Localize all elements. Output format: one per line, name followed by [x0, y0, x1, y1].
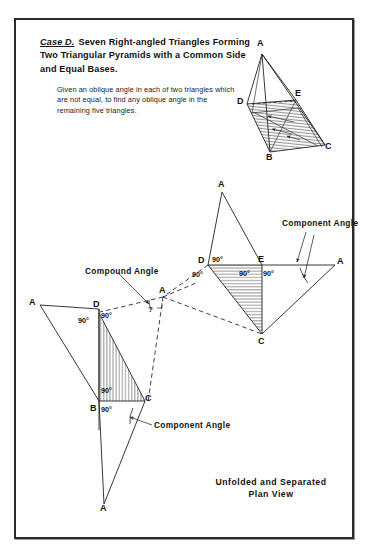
component-angle-leader-lower — [130, 417, 152, 425]
pictorial-label-e: E — [295, 88, 301, 98]
component-angle-leader-right-2 — [297, 232, 306, 262]
pictorial-label-b: B — [266, 152, 273, 162]
lower-label-a-bottom: A — [100, 503, 107, 513]
lower-label-c: C — [145, 393, 152, 403]
component-angle-label-lower: Component Angle — [154, 420, 230, 431]
pictorial-label-d: D — [237, 96, 244, 106]
plan-view-line1: Unfolded and Separated — [196, 476, 346, 488]
dashed-a-mid-to-d-lower — [100, 297, 163, 312]
upper-angle-1: 90° — [212, 255, 223, 264]
upper-angle-2: 90° — [192, 270, 203, 279]
compound-angle-question-mark: ? — [148, 305, 153, 314]
upper-angle-3: 90° — [239, 269, 250, 278]
component-angle-arc-lower — [130, 408, 133, 424]
pyramid-base-hatch — [247, 100, 325, 152]
pictorial-pyramid — [247, 54, 325, 152]
component-angle-arc-right — [300, 268, 308, 283]
segment-c-a-bottom — [104, 401, 145, 504]
lower-label-a-left: A — [29, 297, 36, 307]
upper-angle-4: 90° — [263, 269, 274, 278]
upper-label-e: E — [258, 254, 264, 264]
upper-label-a-top: A — [218, 179, 225, 189]
lower-angle-1: 90° — [78, 316, 89, 325]
lower-triangle-a-d-b — [40, 305, 99, 401]
lower-angle-4: 90° — [101, 405, 112, 414]
lower-angle-2: 90° — [101, 311, 112, 320]
plan-view-line2: Plan View — [196, 488, 346, 500]
lower-angle-3: 90° — [101, 386, 112, 395]
compound-angle-label: Compound Angle — [85, 266, 159, 277]
segment-b-a-bottom — [99, 401, 104, 504]
upper-label-a-right: A — [337, 256, 344, 266]
technical-drawing — [0, 0, 371, 558]
pictorial-label-c: C — [325, 141, 332, 151]
plan-view-caption: Unfolded and Separated Plan View — [196, 476, 346, 500]
lower-label-a-mid: A — [159, 285, 166, 295]
upper-label-c: C — [258, 336, 265, 346]
diagram-page: Case D.Seven Right-angled Triangles Form… — [0, 0, 371, 558]
lower-label-b: B — [90, 403, 97, 413]
component-angle-label-right: Component Angle — [282, 218, 344, 229]
pictorial-label-a: A — [257, 38, 264, 48]
component-angle-leader-right — [304, 235, 314, 278]
compound-angle-leader — [118, 273, 149, 304]
lower-label-d: D — [93, 299, 100, 309]
upper-label-d: D — [198, 255, 205, 265]
